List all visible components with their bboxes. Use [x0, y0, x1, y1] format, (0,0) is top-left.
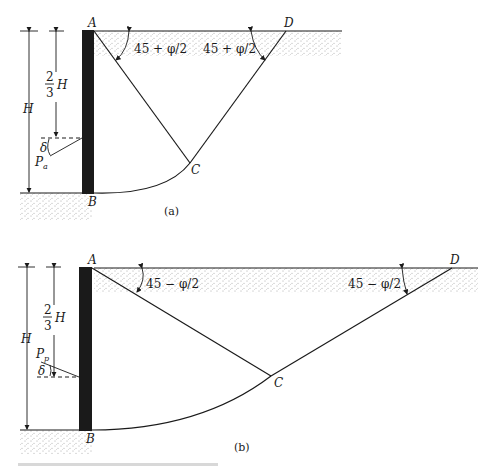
earth-pressure-diagram: 45 + φ/2 45 + φ/2 A D C B H 2 3 H δ Pa (… [0, 0, 489, 468]
delta-arc [50, 365, 51, 376]
fraction-numerator: 2 [44, 303, 52, 317]
fraction-denominator: 3 [44, 319, 52, 333]
base-soil [20, 193, 92, 220]
failure-curve-bc [94, 163, 190, 193]
force-pp-label: Pp [35, 347, 49, 363]
fraction-denominator: 3 [46, 86, 54, 100]
point-b: B [85, 432, 95, 446]
angle-label-right: 45 − φ/2 [348, 277, 401, 291]
delta-label: δ [40, 141, 47, 155]
point-d: D [449, 253, 460, 267]
fraction-variable: H [54, 311, 66, 325]
delta-arc [48, 139, 50, 155]
figure-caption-cutoff [18, 463, 218, 466]
figure-a-active: 45 + φ/2 45 + φ/2 A D C B H 2 3 H δ Pa (… [20, 16, 342, 220]
point-c: C [191, 163, 200, 177]
fraction-numerator: 2 [46, 70, 54, 84]
point-c: C [274, 376, 283, 390]
force-pa-label: Pa [34, 155, 48, 171]
point-a: A [87, 253, 97, 267]
failure-curve-bc [92, 376, 271, 430]
retaining-wall [82, 30, 94, 194]
angle-label-right: 45 + φ/2 [203, 42, 256, 56]
point-a: A [87, 16, 97, 30]
figure-a-caption: (a) [164, 205, 179, 218]
point-b: B [87, 195, 97, 209]
figure-b-caption: (b) [234, 441, 250, 454]
force-pa-line [50, 138, 82, 156]
dimension-h-label: H [22, 102, 34, 116]
force-pp-line [41, 362, 79, 377]
angle-label-left: 45 − φ/2 [146, 277, 199, 291]
retaining-wall [79, 267, 92, 431]
delta-label: δ [38, 364, 45, 378]
point-d: D [283, 16, 294, 30]
dimension-h-label: H [20, 332, 32, 346]
angle-label-left: 45 + φ/2 [134, 42, 187, 56]
base-soil [20, 430, 92, 454]
figure-b-passive: 45 − φ/2 45 − φ/2 A D C B H 2 3 H δ Pp (… [18, 253, 478, 454]
fraction-variable: H [56, 78, 68, 92]
